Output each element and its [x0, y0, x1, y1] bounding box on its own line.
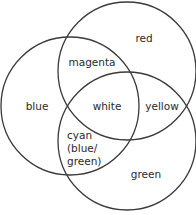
red-circle — [58, 2, 196, 140]
label-cyan-line2: (blue/ — [67, 142, 101, 155]
label-white: white — [93, 100, 122, 113]
label-cyan-line3: green) — [67, 155, 101, 168]
label-magenta: magenta — [69, 56, 116, 69]
label-yellow: yellow — [145, 100, 179, 113]
label-red: red — [135, 32, 152, 45]
label-cyan-line1: cyan — [67, 129, 101, 142]
label-cyan: cyan (blue/ green) — [67, 129, 101, 168]
label-blue: blue — [26, 100, 49, 113]
label-green: green — [131, 168, 161, 181]
